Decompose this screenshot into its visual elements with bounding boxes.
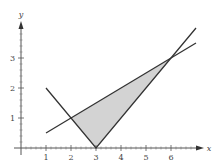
- x-axis-arrow-icon: [196, 146, 204, 151]
- shaded-region: [71, 58, 171, 148]
- y-tick-label: 1: [10, 114, 15, 123]
- line-half-x: [46, 43, 196, 133]
- y-axis-label: y: [18, 10, 24, 19]
- x-tick-label: 6: [168, 153, 173, 162]
- x-tick-label: 5: [143, 153, 148, 162]
- y-tick-label: 3: [10, 54, 15, 63]
- x-tick-label: 4: [118, 153, 123, 162]
- x-tick-label: 3: [93, 153, 98, 162]
- x-tick-label: 2: [68, 153, 73, 162]
- x-axis-label: x: [207, 144, 212, 153]
- x-tick-label: 1: [43, 153, 48, 162]
- y-tick-label: 2: [10, 84, 15, 93]
- graph: 1 2 3 4 5 6 1 2 3 x y: [0, 0, 216, 168]
- y-axis-arrow-icon: [19, 21, 24, 29]
